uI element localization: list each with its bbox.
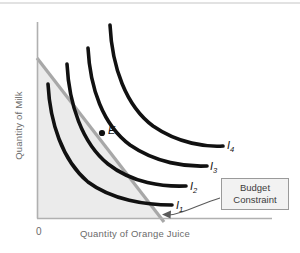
indifference-curve-figure: Quantity of Milk Quantity of Orange Juic…	[0, 0, 300, 253]
indifference-curve-i4	[110, 25, 223, 146]
figure-canvas	[0, 0, 300, 253]
origin-label: 0	[36, 226, 42, 237]
curve-label-i1: I1	[176, 199, 183, 214]
curve-label-i3: I3	[210, 160, 217, 175]
curve-label-i2-subscript: 2	[193, 186, 197, 195]
curve-label-i2: I2	[190, 180, 197, 195]
budget-constraint-callout-box: Budget Constraint	[221, 178, 289, 210]
budget-callout-line-1: Budget	[224, 182, 286, 194]
budget-callout-line-2: Constraint	[224, 194, 286, 206]
callout-arrow-head	[162, 211, 171, 219]
curve-label-i4-subscript: 4	[230, 145, 234, 154]
curve-label-i1-subscript: 1	[179, 205, 183, 214]
equilibrium-point-marker	[99, 130, 105, 136]
x-axis-label: Quantity of Orange Juice	[80, 228, 190, 239]
curve-label-i3-subscript: 3	[213, 166, 217, 175]
equilibrium-point-label: E	[108, 124, 115, 136]
curve-label-i4: I4	[227, 139, 234, 154]
y-axis-label: Quantity of Milk	[13, 86, 24, 166]
